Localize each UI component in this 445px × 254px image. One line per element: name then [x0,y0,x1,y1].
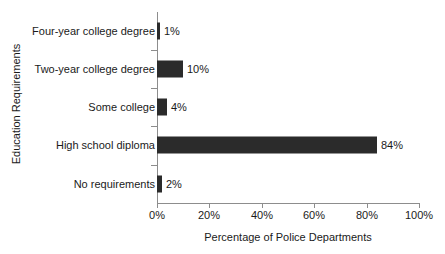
category-label: Four-year college degree [32,25,155,37]
x-tick-mark [367,203,368,208]
bar [157,176,162,193]
bar-value-label: 1% [164,25,180,37]
bar-row: Some college 4% [0,88,445,126]
x-axis-title: Percentage of Police Departments [157,231,419,243]
bar-row: No requirements 2% [0,165,445,203]
category-label: Some college [88,101,155,113]
x-tick-mark [209,203,210,208]
x-tick-label: 80% [356,209,378,221]
category-label: No requirements [74,178,155,190]
bar-row: Four-year college degree 1% [0,12,445,50]
bar-chart: Education Requirements Four-year college… [0,0,445,254]
category-label: Two-year college degree [35,63,155,75]
bar-row: High school diploma 84% [0,126,445,164]
bar [157,99,167,116]
bar-value-label: 4% [171,101,187,113]
bar-row: Two-year college degree 10% [0,50,445,88]
x-tick-mark [419,203,420,208]
bar-value-label: 2% [166,178,182,190]
x-tick-label: 40% [251,209,273,221]
x-tick-mark [157,203,158,208]
bar [157,61,183,78]
x-tick-label: 60% [303,209,325,221]
x-tick-mark [262,203,263,208]
category-label: High school diploma [56,139,155,151]
x-tick-label: 100% [405,209,433,221]
x-tick-label: 20% [198,209,220,221]
x-axis-line [157,203,419,204]
x-tick-label: 0% [149,209,165,221]
bar [157,137,377,154]
bar-value-label: 10% [187,63,209,75]
x-tick-mark [314,203,315,208]
bar [157,23,160,40]
bar-value-label: 84% [381,139,403,151]
